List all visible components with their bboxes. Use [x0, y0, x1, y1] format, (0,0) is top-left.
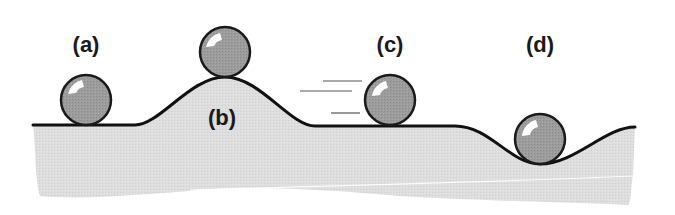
ball-b [200, 27, 250, 77]
ball-a [61, 75, 111, 125]
label-b: (b) [208, 105, 236, 131]
ball-c [365, 75, 415, 125]
equilibrium-diagram: (a) (b) (c) (d) [0, 0, 675, 215]
label-d: (d) [526, 32, 554, 58]
label-a: (a) [73, 32, 100, 58]
label-c: (c) [377, 32, 404, 58]
diagram-canvas [0, 0, 675, 215]
motion-lines [300, 81, 362, 113]
ball-d [515, 114, 565, 164]
